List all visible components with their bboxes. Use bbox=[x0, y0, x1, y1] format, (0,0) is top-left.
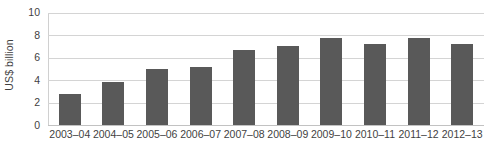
x-tick-label: 2003–04 bbox=[48, 128, 92, 141]
x-tick-label: 2007–08 bbox=[222, 128, 266, 141]
x-tick-label: 2011–12 bbox=[397, 128, 441, 141]
bar-chart: US$ billion 0246810 2003–042004–052005–0… bbox=[0, 0, 492, 151]
y-tick-label: 2 bbox=[34, 97, 40, 108]
x-tick-label: 2008–09 bbox=[266, 128, 310, 141]
y-tick-label: 6 bbox=[34, 52, 40, 63]
y-tick-label: 10 bbox=[28, 7, 40, 18]
y-axis-tick-labels: 0246810 bbox=[18, 0, 44, 140]
y-tick-label: 4 bbox=[34, 75, 40, 86]
bar bbox=[364, 44, 386, 125]
bars-layer bbox=[48, 13, 484, 125]
bar bbox=[190, 67, 212, 125]
bar bbox=[320, 38, 342, 125]
bar bbox=[277, 46, 299, 125]
plot-area bbox=[48, 13, 484, 125]
x-tick-label: 2005–06 bbox=[135, 128, 179, 141]
y-tick-label: 0 bbox=[34, 120, 40, 131]
x-tick-label: 2006–07 bbox=[179, 128, 223, 141]
bar bbox=[146, 69, 168, 125]
gridline-0 bbox=[48, 125, 484, 126]
y-tick-label: 8 bbox=[34, 30, 40, 41]
bar bbox=[408, 38, 430, 125]
y-axis-title: US$ billion bbox=[0, 0, 18, 130]
bar bbox=[233, 50, 255, 125]
bar bbox=[451, 44, 473, 125]
bar bbox=[102, 82, 124, 125]
x-axis-tick-labels: 2003–042004–052005–062006–072007–082008–… bbox=[48, 128, 484, 148]
x-tick-label: 2012–13 bbox=[440, 128, 484, 141]
x-tick-label: 2010–11 bbox=[353, 128, 397, 141]
bar bbox=[59, 94, 81, 125]
x-tick-label: 2009–10 bbox=[310, 128, 354, 141]
y-axis-title-label: US$ billion bbox=[3, 39, 15, 90]
x-tick-label: 2004–05 bbox=[92, 128, 136, 141]
